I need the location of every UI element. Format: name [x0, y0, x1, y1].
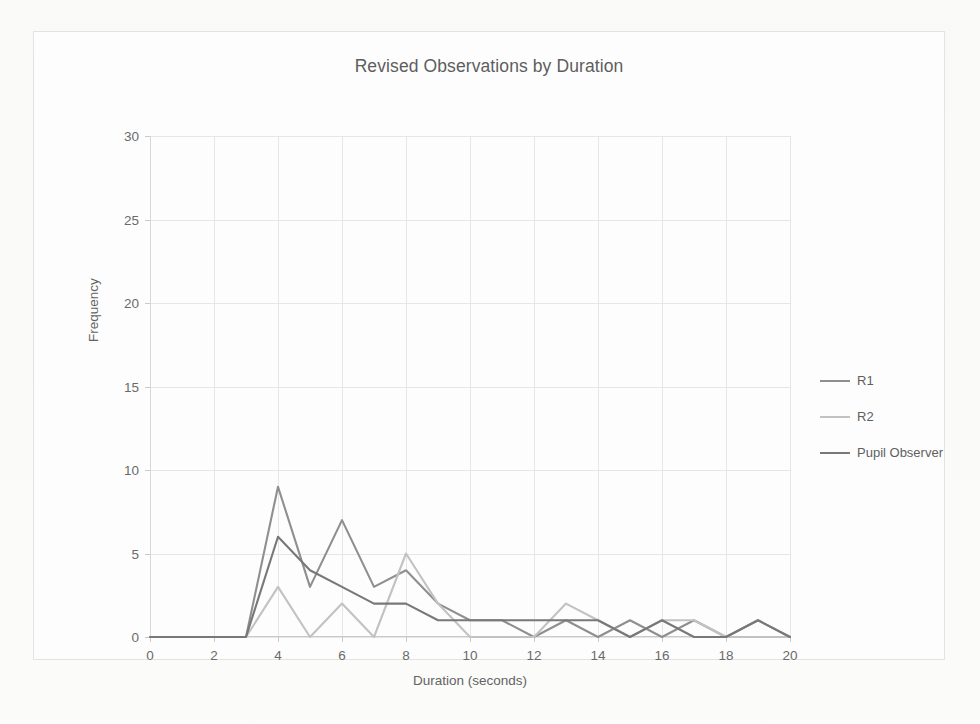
x-tick-label: 16 [654, 648, 669, 663]
x-tick-label: 20 [782, 648, 797, 663]
y-tick-label: 0 [131, 630, 139, 645]
series-line [150, 487, 790, 637]
y-tick-label: 20 [124, 296, 139, 311]
x-tick-label: 4 [274, 648, 282, 663]
y-tick-label: 5 [131, 546, 139, 561]
y-tick-label: 15 [124, 379, 139, 394]
legend-label: R2 [857, 409, 874, 424]
x-tick-label: 6 [338, 648, 346, 663]
legend-label: Pupil Observer [857, 445, 943, 460]
x-tick-label: 8 [402, 648, 410, 663]
legend-label: R1 [857, 373, 874, 388]
x-tick-label: 2 [210, 648, 218, 663]
series-line [150, 554, 790, 638]
chart-title: Revised Observations by Duration [34, 56, 944, 77]
x-tick-label: 14 [590, 648, 605, 663]
y-tick-label: 30 [124, 129, 139, 144]
x-tick-mark [342, 637, 343, 642]
y-axis-title: Frequency [86, 278, 101, 342]
x-axis-title: Duration (seconds) [150, 673, 790, 688]
legend-line-swatch [820, 416, 850, 418]
x-tick-mark [406, 637, 407, 642]
x-tick-label: 12 [526, 648, 541, 663]
legend-line-swatch [820, 452, 850, 454]
series-line [150, 537, 790, 637]
chart-frame: Revised Observations by Duration Frequen… [33, 31, 945, 660]
plot-area: 051015202530 02468101214161820 Duration … [150, 136, 790, 637]
legend-item: Pupil Observer [820, 445, 943, 460]
series-lines [150, 136, 790, 637]
x-tick-label: 10 [462, 648, 477, 663]
x-tick-label: 18 [718, 648, 733, 663]
x-tick-label: 0 [146, 648, 154, 663]
legend-line-swatch [820, 380, 850, 382]
y-tick-label: 10 [124, 463, 139, 478]
legend-item: R1 [820, 373, 943, 388]
x-tick-mark [278, 637, 279, 642]
legend-item: R2 [820, 409, 943, 424]
y-tick-label: 25 [124, 212, 139, 227]
gridline-vertical [790, 136, 791, 637]
chart-legend: R1R2Pupil Observer [820, 373, 943, 460]
